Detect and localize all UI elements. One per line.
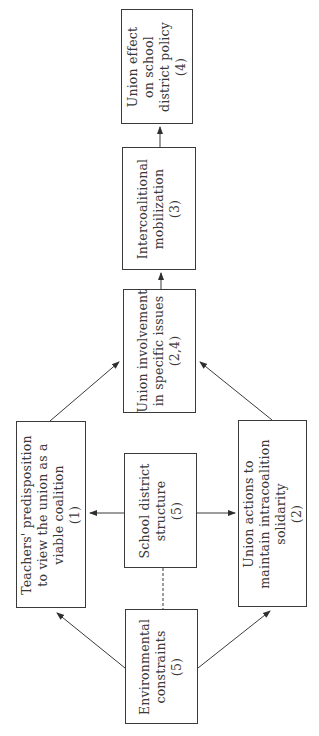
node-union-involvement: Union involvement in specific issues (2,… [123,289,196,413]
node-school-district-structure: School district structure (5) [124,453,197,568]
edge-env-teachers [57,613,125,668]
node-union-actions-label: Union actions to maintain intracoalition… [241,439,305,589]
node-union-actions: Union actions to maintain intracoalition… [238,420,307,607]
node-intercoalitional-mobilization-label: Intercoalitional mobilization (3) [135,158,183,259]
edge-env-actions [198,611,270,668]
node-environmental-constraints: Environmental constraints (5) [125,609,198,724]
node-environmental-constraints-label: Environmental constraints (5) [138,618,186,714]
edge-actions-involvement [200,362,272,420]
edge-teachers-involvement [50,362,119,421]
node-school-district-structure-label: School district structure (5) [137,463,185,558]
node-union-effect: Union effect on school district policy (… [121,9,193,124]
node-teachers-predisposition: Teachers' predisposition to view the uni… [16,421,86,608]
node-union-involvement-label: Union involvement in specific issues (2,… [136,290,184,413]
node-union-effect-label: Union effect on school district policy (… [125,22,189,112]
node-teachers-predisposition-label: Teachers' predisposition to view the uni… [19,435,83,595]
node-intercoalitional-mobilization: Intercoalitional mobilization (3) [122,147,196,270]
